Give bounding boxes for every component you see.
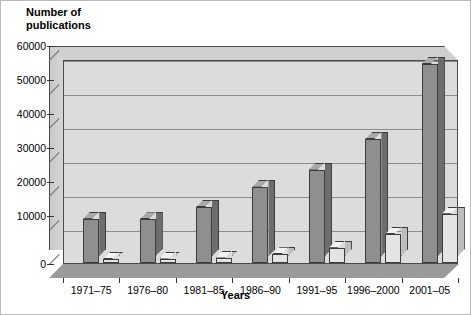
bar-front-face (160, 259, 176, 263)
y-tick-label: 20000 (17, 176, 46, 188)
bar-side-face (288, 247, 295, 256)
x-tick-mark (63, 278, 64, 283)
bar-side-face (119, 252, 126, 256)
x-tick-mark (345, 278, 346, 283)
y-tick-label: 30000 (17, 142, 46, 154)
bar-side-face (176, 252, 183, 256)
bar-front-face (252, 187, 268, 264)
bar[interactable] (442, 214, 458, 263)
bar[interactable] (422, 64, 438, 263)
bar-side-face (458, 207, 465, 256)
bar-top-face (196, 200, 212, 207)
x-tick-mark (232, 278, 233, 283)
plot-wall-top (49, 46, 459, 61)
bar-side-face (156, 212, 163, 256)
bar-top-face (216, 251, 232, 258)
bar-side-face (99, 212, 106, 256)
bar-front-face (103, 259, 119, 263)
bar-side-face (232, 251, 239, 256)
y-tick-label: 0 (40, 258, 46, 270)
bar-top-face (140, 212, 156, 219)
y-tick-label: 10000 (17, 210, 46, 222)
bar-side-face (401, 227, 408, 256)
y-tick-label: 60000 (17, 40, 46, 52)
plot-floor (49, 264, 459, 278)
bar-side-face (345, 241, 352, 256)
bar-top-face (83, 212, 99, 219)
gridline (64, 95, 457, 96)
bar-front-face (385, 234, 401, 263)
bar[interactable] (272, 254, 288, 263)
bar[interactable] (329, 248, 345, 263)
y-tick-label: 40000 (17, 108, 46, 120)
chart-figure: Number of publications 01000020000300004… (0, 0, 471, 315)
bar-front-face (329, 248, 345, 263)
x-tick-mark (289, 278, 290, 283)
x-tick-mark (119, 278, 120, 283)
bar-front-face (422, 64, 438, 263)
y-tick-mark (47, 148, 54, 149)
bar-front-face (365, 139, 381, 263)
bar-top-face (252, 180, 268, 187)
bar[interactable] (140, 219, 156, 263)
bar[interactable] (309, 170, 325, 264)
bar-top-face (103, 252, 119, 259)
bar[interactable] (83, 219, 99, 263)
y-tick-mark (47, 46, 54, 47)
bar[interactable] (160, 259, 176, 263)
bar[interactable] (252, 187, 268, 264)
x-axis-label: Years (0, 289, 471, 301)
bar-front-face (309, 170, 325, 264)
bar-top-face (365, 132, 381, 139)
gridline (64, 129, 457, 130)
plot-area (63, 60, 458, 264)
x-tick-mark (458, 278, 459, 283)
bar-front-face (83, 219, 99, 263)
y-tick-mark (47, 264, 54, 265)
bar-front-face (196, 207, 212, 263)
bar-front-face (140, 219, 156, 263)
bar-side-face (325, 163, 332, 257)
bar-side-face (212, 200, 219, 256)
bar-front-face (216, 258, 232, 263)
y-tick-label: 50000 (17, 74, 46, 86)
bar-front-face (442, 214, 458, 263)
y-tick-mark (47, 182, 54, 183)
y-axis: 0100002000030000400005000060000 (0, 0, 46, 315)
bar[interactable] (196, 207, 212, 263)
gridline (64, 163, 457, 164)
bar-front-face (272, 254, 288, 263)
bar-top-face (160, 252, 176, 259)
bar[interactable] (365, 139, 381, 263)
x-tick-mark (402, 278, 403, 283)
x-tick-mark (176, 278, 177, 283)
bar-side-face (268, 180, 275, 257)
gridline (64, 61, 457, 62)
y-tick-mark (47, 216, 54, 217)
y-tick-mark (47, 114, 54, 115)
bar[interactable] (385, 234, 401, 263)
bar[interactable] (103, 259, 119, 263)
y-tick-mark (47, 80, 54, 81)
bar[interactable] (216, 258, 232, 263)
